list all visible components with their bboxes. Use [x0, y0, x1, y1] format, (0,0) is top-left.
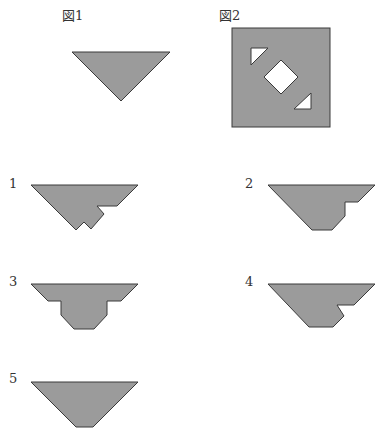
option-4-shape[interactable]	[268, 284, 375, 327]
option-3-shape[interactable]	[31, 284, 138, 329]
figure-1-triangle	[72, 52, 170, 101]
figure-canvas	[0, 0, 382, 434]
option-5-shape[interactable]	[31, 382, 138, 427]
option-2-shape[interactable]	[268, 185, 375, 230]
option-1-shape[interactable]	[31, 185, 138, 230]
